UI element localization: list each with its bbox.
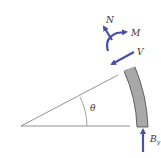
moment-label: M	[130, 28, 141, 38]
curved-member-section	[124, 67, 148, 127]
normal-force-label: N	[105, 15, 115, 25]
reaction-force-label: By	[149, 134, 161, 146]
theta-angle-arc	[80, 97, 87, 126]
inclined-reference-line	[21, 75, 118, 126]
shear-force-label: V	[137, 47, 145, 57]
theta-label: θ	[90, 103, 96, 113]
curved-beam-free-body-diagram: θ V N M By	[0, 0, 161, 158]
shear-force-arrow	[112, 52, 134, 64]
